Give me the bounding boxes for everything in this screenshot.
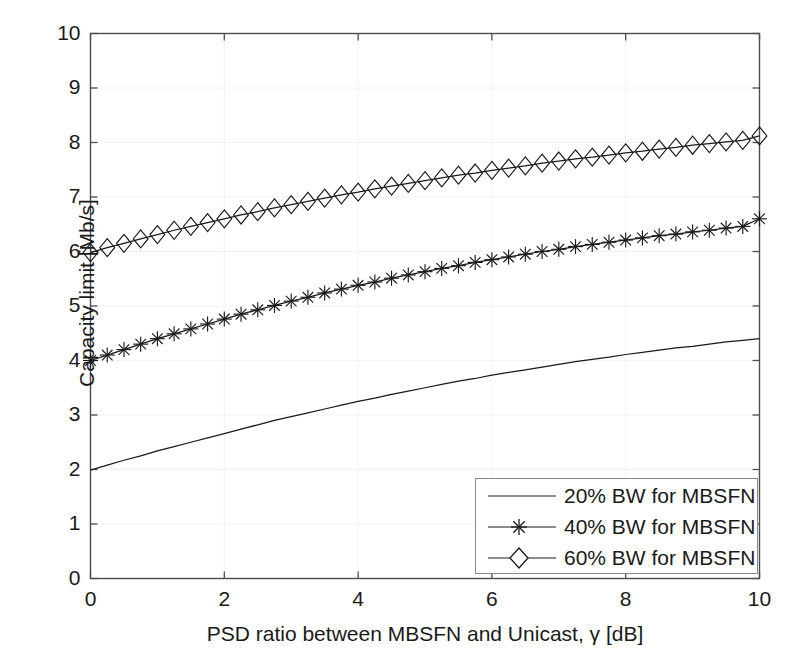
chart-legend: 20% BW for MBSFN 40% BW for MBSFN 60% BW… — [475, 478, 758, 574]
legend-label-40: 40% BW for MBSFN — [564, 515, 755, 539]
x-tick-label: 6 — [472, 587, 512, 611]
data-series — [83, 127, 767, 470]
y-tick-label: 6 — [37, 239, 81, 263]
x-tick-label: 0 — [71, 587, 111, 611]
y-tick-label: 8 — [37, 130, 81, 154]
legend-item-40: 40% BW for MBSFN — [476, 511, 759, 543]
y-tick-label: 10 — [37, 21, 81, 45]
y-tick-label: 1 — [37, 511, 81, 535]
legend-line-sample-40 — [486, 511, 558, 543]
y-tick-label: 9 — [37, 75, 81, 99]
x-tick-label: 10 — [740, 587, 780, 611]
x-axis-label: PSD ratio between MBSFN and Unicast, γ [… — [90, 622, 760, 646]
x-tick-label: 8 — [606, 587, 646, 611]
legend-item-60: 60% BW for MBSFN — [476, 542, 759, 574]
x-tick-label: 2 — [204, 587, 244, 611]
y-axis-label: Capacity limit [Mb/s] — [75, 20, 99, 566]
y-tick-label: 7 — [37, 184, 81, 208]
y-tick-label: 2 — [37, 457, 81, 481]
legend-line-sample-60 — [486, 542, 558, 574]
legend-label-60: 60% BW for MBSFN — [564, 546, 755, 570]
legend-item-20: 20% BW for MBSFN — [476, 480, 759, 512]
y-tick-label: 5 — [37, 293, 81, 317]
legend-line-sample-20 — [486, 480, 558, 512]
x-tick-label: 4 — [338, 587, 378, 611]
y-tick-label: 3 — [37, 402, 81, 426]
legend-label-20: 20% BW for MBSFN — [564, 484, 755, 508]
y-tick-label: 4 — [37, 348, 81, 372]
figure-canvas: 012345678910 0246810 PSD ratio between M… — [0, 0, 806, 668]
